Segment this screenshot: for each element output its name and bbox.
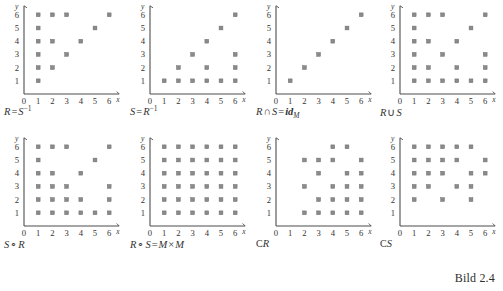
svg-text:3: 3: [64, 228, 68, 238]
svg-text:1: 1: [288, 228, 292, 238]
figure-bild-2-4: 0123456123456xy R=S−1 0123456123456xy S=…: [0, 0, 503, 291]
plot-axes: 0123456123456xy: [378, 2, 503, 112]
svg-text:2: 2: [426, 96, 430, 106]
svg-text:2: 2: [15, 63, 19, 73]
svg-text:2: 2: [426, 228, 430, 238]
svg-text:5: 5: [267, 23, 271, 33]
svg-text:6: 6: [233, 96, 238, 106]
svg-text:3: 3: [190, 96, 194, 106]
svg-text:0: 0: [148, 228, 152, 238]
plot-s-compose-r: 0123456123456xy S∘R: [2, 134, 127, 267]
svg-text:2: 2: [302, 228, 306, 238]
svg-text:4: 4: [331, 228, 336, 238]
svg-text:4: 4: [79, 228, 84, 238]
plot-axes: 0123456123456xy: [128, 134, 253, 244]
svg-text:x: x: [367, 95, 372, 104]
svg-text:1: 1: [162, 228, 166, 238]
svg-text:2: 2: [267, 195, 271, 205]
plot-r-intersect-s: 0123456123456xy R∩S=idM: [254, 2, 379, 135]
svg-text:1: 1: [141, 208, 145, 218]
svg-text:2: 2: [302, 96, 306, 106]
svg-text:6: 6: [483, 228, 488, 238]
svg-text:4: 4: [267, 168, 272, 178]
svg-text:4: 4: [391, 168, 396, 178]
svg-text:y: y: [390, 2, 395, 11]
svg-text:4: 4: [15, 168, 20, 178]
svg-text:1: 1: [391, 208, 395, 218]
svg-text:5: 5: [219, 228, 223, 238]
svg-text:6: 6: [141, 142, 146, 152]
svg-text:x: x: [115, 227, 120, 236]
svg-text:y: y: [14, 2, 19, 11]
svg-text:4: 4: [455, 96, 460, 106]
svg-text:1: 1: [412, 228, 416, 238]
svg-text:4: 4: [267, 36, 272, 46]
plot-caption: S=R−1: [130, 106, 158, 117]
plot-complement-r: 0123456123456xy CR: [254, 134, 379, 267]
svg-text:4: 4: [205, 96, 210, 106]
plot-caption: R∪S: [380, 106, 402, 118]
plot-axes: 0123456123456xy: [378, 134, 503, 244]
svg-text:3: 3: [391, 49, 395, 59]
plot-axes: 0123456123456xy: [254, 2, 379, 112]
svg-text:1: 1: [391, 76, 395, 86]
svg-text:5: 5: [469, 96, 473, 106]
plot-caption: R∘S=M×M: [130, 238, 184, 250]
svg-text:4: 4: [141, 36, 146, 46]
svg-text:3: 3: [391, 181, 395, 191]
svg-text:y: y: [390, 134, 395, 143]
svg-text:2: 2: [15, 195, 19, 205]
svg-text:x: x: [115, 95, 120, 104]
plot-complement-s: 0123456123456xy CS: [378, 134, 503, 267]
svg-text:0: 0: [274, 96, 278, 106]
svg-text:1: 1: [36, 96, 40, 106]
plot-r-union-s: 0123456123456xy R∪S: [378, 2, 503, 135]
svg-text:1: 1: [162, 96, 166, 106]
svg-text:1: 1: [412, 96, 416, 106]
svg-text:0: 0: [398, 228, 402, 238]
svg-text:5: 5: [93, 228, 97, 238]
svg-text:y: y: [266, 2, 271, 11]
svg-text:3: 3: [267, 49, 271, 59]
plot-caption: CS: [380, 238, 392, 249]
svg-text:1: 1: [15, 76, 19, 86]
svg-text:6: 6: [267, 142, 272, 152]
svg-text:4: 4: [391, 36, 396, 46]
svg-text:4: 4: [141, 168, 146, 178]
svg-text:5: 5: [15, 23, 19, 33]
svg-text:6: 6: [391, 10, 396, 20]
svg-text:y: y: [266, 134, 271, 143]
svg-text:1: 1: [267, 208, 271, 218]
svg-text:2: 2: [267, 63, 271, 73]
svg-text:1: 1: [288, 96, 292, 106]
svg-text:3: 3: [267, 181, 271, 191]
svg-text:5: 5: [469, 228, 473, 238]
plot-caption: S∘R: [4, 238, 25, 250]
plot-r-compose-s: 0123456123456xy R∘S=M×M: [128, 134, 253, 267]
svg-text:4: 4: [15, 36, 20, 46]
svg-text:3: 3: [316, 228, 320, 238]
svg-text:3: 3: [64, 96, 68, 106]
svg-text:x: x: [241, 227, 246, 236]
svg-text:6: 6: [107, 96, 112, 106]
svg-text:3: 3: [141, 49, 145, 59]
svg-text:5: 5: [345, 228, 349, 238]
svg-text:2: 2: [391, 63, 395, 73]
svg-text:2: 2: [50, 96, 54, 106]
svg-text:0: 0: [22, 228, 26, 238]
svg-text:6: 6: [15, 10, 20, 20]
svg-text:6: 6: [107, 228, 112, 238]
svg-text:2: 2: [176, 96, 180, 106]
svg-text:1: 1: [141, 76, 145, 86]
plot-s-equals-r-inverse: 0123456123456xy S=R−1: [128, 2, 253, 135]
svg-text:5: 5: [391, 23, 395, 33]
svg-text:6: 6: [391, 142, 396, 152]
svg-text:y: y: [14, 134, 19, 143]
svg-text:5: 5: [141, 23, 145, 33]
svg-text:x: x: [491, 227, 496, 236]
plot-caption: CR: [256, 238, 269, 249]
svg-text:x: x: [491, 95, 496, 104]
svg-text:2: 2: [50, 228, 54, 238]
svg-text:3: 3: [15, 49, 19, 59]
svg-text:x: x: [367, 227, 372, 236]
